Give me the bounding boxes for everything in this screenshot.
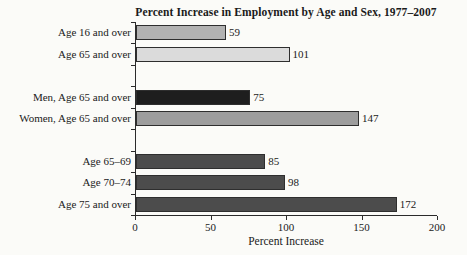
x-axis-tick-label: 100 — [278, 221, 295, 233]
bar-value-label: 147 — [362, 111, 379, 126]
y-axis-tick — [131, 22, 135, 23]
y-axis-tick — [131, 172, 135, 173]
x-axis-tick — [135, 216, 136, 220]
y-axis-tick — [131, 108, 135, 109]
x-axis-tick-label: 150 — [353, 221, 370, 233]
y-axis-tick — [131, 129, 135, 130]
y-axis-tick — [131, 43, 135, 44]
y-axis-tick — [131, 194, 135, 195]
x-axis-tick-label: 200 — [429, 221, 446, 233]
bar-category-label: Women, Age 65 and over — [19, 111, 131, 126]
bar-value-label: 85 — [268, 154, 279, 169]
x-axis-tick — [437, 216, 438, 220]
bar-category-label: Age 16 and over — [58, 25, 131, 40]
x-axis-tick — [211, 216, 212, 220]
x-axis-title: Percent Increase — [135, 235, 437, 247]
x-axis-tick — [362, 216, 363, 220]
employment-bar-chart-figure: Percent Increase in Employment by Age an… — [0, 0, 467, 255]
bar — [136, 47, 290, 62]
bar-category-label: Age 70–74 — [82, 175, 131, 190]
bar-category-label: Age 75 and over — [58, 197, 131, 212]
bar — [136, 25, 226, 40]
bar — [136, 90, 250, 105]
x-axis-tick-label: 50 — [205, 221, 216, 233]
y-axis-tick — [131, 151, 135, 152]
bar-value-label: 59 — [229, 25, 240, 40]
y-axis-tick — [131, 86, 135, 87]
bar-category-label: Men, Age 65 and over — [33, 90, 131, 105]
bar — [136, 175, 285, 190]
chart-title: Percent Increase in Employment by Age an… — [130, 6, 442, 18]
bar-category-label: Age 65 and over — [58, 47, 131, 62]
bar-value-label: 98 — [288, 175, 299, 190]
bar — [136, 154, 265, 169]
y-axis-tick — [131, 65, 135, 66]
bar-value-label: 101 — [293, 47, 310, 62]
x-axis-tick — [286, 216, 287, 220]
bar-value-label: 172 — [400, 197, 417, 212]
bar-value-label: 75 — [253, 90, 264, 105]
bar-category-label: Age 65–69 — [82, 154, 131, 169]
plot-area: Percent Increase 050100150200Age 16 and … — [135, 22, 437, 215]
bar — [136, 197, 397, 212]
bar — [136, 111, 359, 126]
x-axis-tick-label: 0 — [132, 221, 138, 233]
